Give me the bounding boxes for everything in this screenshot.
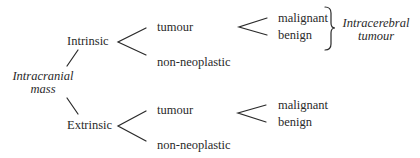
intrinsic-non-neoplastic-node: non-neoplastic (157, 56, 231, 69)
root-node: Intracranial mass (8, 70, 78, 96)
intrinsic-node: Intrinsic (67, 35, 109, 48)
fork-extrinsic-tumour (238, 105, 266, 122)
extrinsic-tumour-node: tumour (157, 104, 193, 117)
extrinsic-node: Extrinsic (67, 119, 112, 132)
root-label-line2: mass (8, 83, 78, 96)
intrinsic-benign-node: benign (278, 29, 312, 42)
extrinsic-malignant-node: malignant (278, 99, 328, 112)
intracerebral-label-line2: tumour (338, 30, 414, 43)
intrinsic-malignant-node: malignant (278, 12, 328, 25)
edge-root-extrinsic (67, 98, 78, 114)
extrinsic-non-neoplastic-node: non-neoplastic (157, 139, 231, 152)
fork-extrinsic (118, 111, 146, 141)
classification-diagram: Intracranial mass Intrinsic tumour non-n… (0, 0, 420, 158)
fork-intrinsic (118, 28, 146, 55)
fork-intrinsic-tumour (239, 18, 267, 35)
intrinsic-tumour-node: tumour (157, 21, 193, 34)
edge-root-intrinsic (67, 50, 78, 66)
intracerebral-tumour-label: Intracerebral tumour (338, 17, 414, 43)
extrinsic-benign-node: benign (278, 116, 312, 129)
